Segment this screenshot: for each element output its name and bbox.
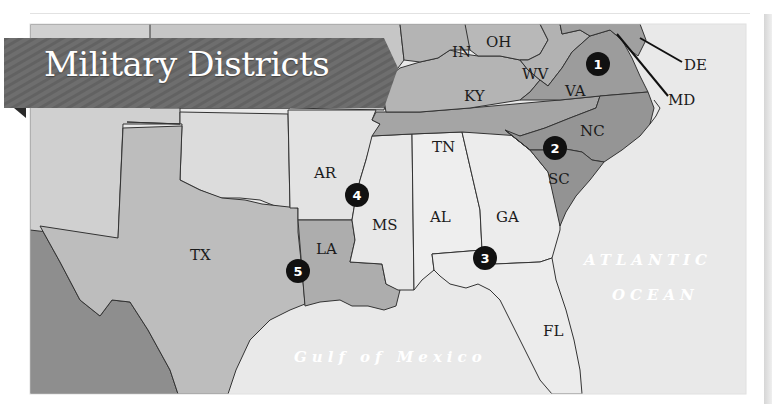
banner-fold [14, 108, 26, 118]
label-ky: KY [464, 87, 486, 105]
district-number-4: 4 [352, 188, 361, 203]
district-number-1: 1 [593, 57, 602, 72]
label-de: DE [684, 56, 707, 74]
district-marker-1: 1 [586, 52, 610, 76]
label-ms: MS [372, 216, 398, 234]
district-marker-5: 5 [286, 259, 310, 283]
label-ga: GA [496, 208, 519, 226]
district-number-5: 5 [293, 264, 302, 279]
label-wv: WV [522, 65, 549, 83]
district-marker-4: 4 [345, 183, 369, 207]
page-title: Military Districts [44, 44, 329, 84]
label-al: AL [429, 208, 451, 226]
label-sc: SC [548, 170, 570, 188]
label-in: IN [452, 43, 471, 61]
district-number-3: 3 [480, 251, 489, 266]
label-md: MD [668, 91, 695, 109]
label-gulf-of-mexico: Gulf of Mexico [294, 348, 487, 366]
district-marker-2: 2 [543, 136, 567, 160]
district-number-2: 2 [550, 141, 559, 156]
label-la: LA [316, 240, 337, 258]
label-va: VA [564, 82, 586, 100]
label-tx: TX [190, 246, 211, 264]
label-ar: AR [313, 164, 337, 182]
label-nc: NC [580, 122, 605, 140]
label-ocean: OCEAN [612, 286, 699, 304]
label-oh: OH [486, 33, 511, 51]
label-atlantic: ATLANTIC [582, 251, 712, 269]
label-tn: TN [432, 138, 455, 156]
label-fl: FL [543, 322, 563, 340]
district-marker-3: 3 [473, 246, 497, 270]
